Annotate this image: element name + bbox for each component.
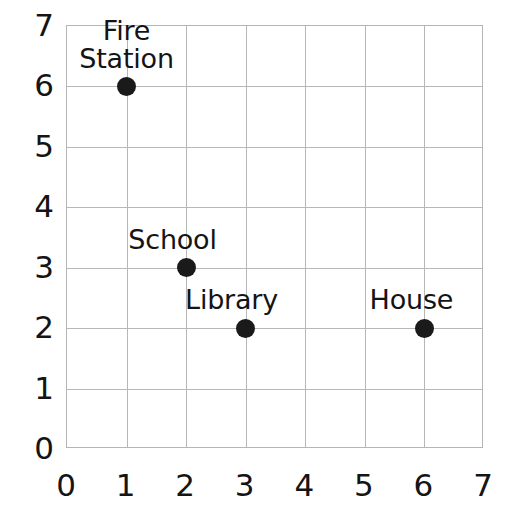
- x-axis-tick-label: 5: [344, 470, 384, 501]
- y-axis-tick-label: 6: [14, 70, 54, 101]
- x-axis-tick-label: 6: [403, 470, 443, 501]
- gridline-vertical: [305, 26, 306, 447]
- data-point-label: Fire Station: [79, 17, 174, 72]
- data-point-label: House: [370, 287, 454, 315]
- y-axis-tick-label: 3: [14, 251, 54, 282]
- data-point-marker: [117, 77, 136, 96]
- y-axis-tick-label: 0: [14, 433, 54, 464]
- gridline-horizontal: [67, 147, 482, 148]
- plot-area: Fire StationSchoolLibraryHouse: [66, 25, 483, 448]
- gridline-horizontal: [67, 207, 482, 208]
- x-axis-tick-label: 4: [284, 470, 324, 501]
- coordinate-grid-figure: Fire StationSchoolLibraryHouse 012345670…: [0, 0, 509, 522]
- data-point-marker: [177, 258, 196, 277]
- y-axis-tick-label: 4: [14, 191, 54, 222]
- data-point-marker: [415, 319, 434, 338]
- y-axis-tick-label: 7: [14, 10, 54, 41]
- x-axis-tick-label: 1: [106, 470, 146, 501]
- data-point-label: School: [128, 226, 216, 254]
- y-axis-tick-label: 2: [14, 312, 54, 343]
- x-axis-tick-label: 2: [165, 470, 205, 501]
- gridline-vertical: [424, 26, 425, 447]
- data-point-label: Library: [185, 287, 278, 315]
- y-axis-tick-label: 1: [14, 372, 54, 403]
- x-axis-tick-label: 7: [463, 470, 503, 501]
- gridline-vertical: [246, 26, 247, 447]
- gridline-horizontal: [67, 268, 482, 269]
- gridline-vertical: [365, 26, 366, 447]
- x-axis-tick-label: 0: [46, 470, 86, 501]
- y-axis-tick-label: 5: [14, 130, 54, 161]
- gridline-horizontal: [67, 389, 482, 390]
- data-point-marker: [236, 319, 255, 338]
- x-axis-tick-label: 3: [225, 470, 265, 501]
